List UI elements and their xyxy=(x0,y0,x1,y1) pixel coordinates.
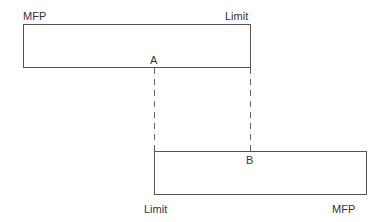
top-range-box xyxy=(23,24,251,68)
point-b-label: B xyxy=(246,154,253,166)
top-left-label: MFP xyxy=(23,10,46,22)
bottom-right-label: MFP xyxy=(332,203,355,215)
point-a-label: A xyxy=(150,54,157,66)
bottom-range-box xyxy=(154,151,367,195)
top-right-label: Limit xyxy=(225,10,248,22)
bottom-left-label: Limit xyxy=(144,203,167,215)
